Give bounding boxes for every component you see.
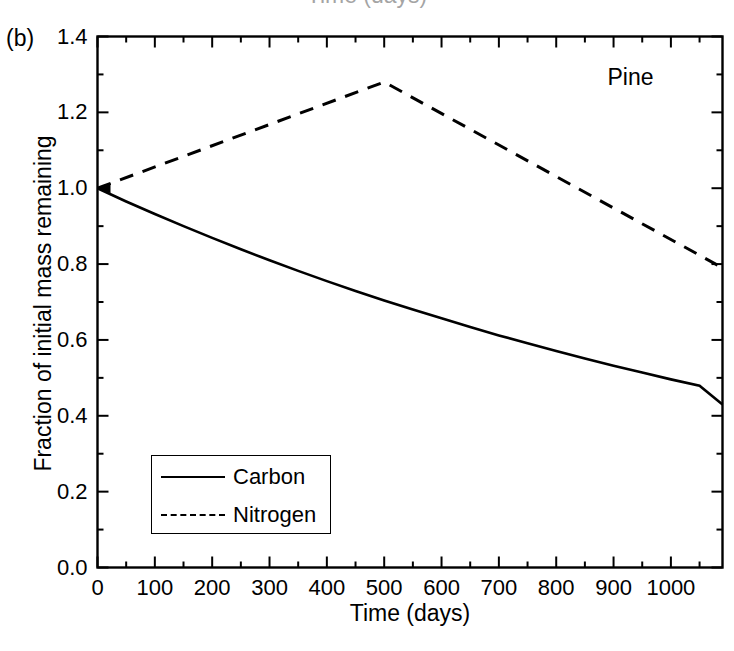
y-tick-label: 0.8 [28,253,88,275]
legend-line-solid-icon [161,470,225,484]
legend-label: Nitrogen [233,504,316,526]
y-tick-label: 1.2 [28,101,88,123]
data-series-layer [98,82,723,404]
group-annotation-pine: Pine [608,64,654,91]
figure-panel-b: Time (days) (b) Fraction of initial mass… [0,0,734,651]
legend-entry-nitrogen: Nitrogen [152,495,330,534]
y-tick-label: 0.2 [28,481,88,503]
y-tick-label: 0.6 [28,329,88,351]
legend: Carbon Nitrogen [151,455,331,534]
legend-line-dashed-icon [161,508,225,522]
y-tick-label: 1.4 [28,26,88,48]
legend-label: Carbon [233,466,305,488]
x-tick-label: 1000 [631,577,711,599]
y-tick-label: 0.4 [28,405,88,427]
plot-canvas [0,0,734,651]
y-tick-label: 1.0 [28,177,88,199]
legend-entry-carbon: Carbon [152,457,330,496]
y-tick-label: 0.0 [28,557,88,579]
